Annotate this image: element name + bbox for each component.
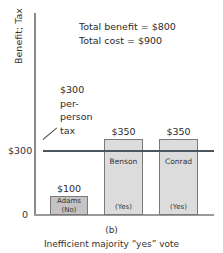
bar-adams: Adams (No) — [50, 196, 88, 215]
total-cost: Total cost = $900 — [79, 34, 176, 48]
totals-annotation: Total benefit = $800 Total cost = $900 — [79, 20, 176, 48]
y-axis-label: Benefit; Tax — [13, 8, 24, 64]
bar-value-conrad: $350 — [159, 126, 198, 137]
bar-name-adams: Adams — [51, 197, 87, 206]
panel-label: (b) — [0, 225, 223, 235]
chart-caption: Inefficient majority “yes” vote — [0, 239, 223, 249]
tax-annotation: $300 per- person tax — [60, 83, 93, 137]
bar-value-benson: $350 — [104, 126, 143, 137]
tax-reference-line — [43, 150, 214, 152]
tax-annotation-line: per- — [60, 97, 93, 111]
annotation-leader-line — [43, 128, 57, 140]
bar-vote-conrad: (Yes) — [160, 203, 197, 212]
bar-name-conrad: Conrad — [160, 157, 197, 166]
bar-name-benson: Benson — [105, 157, 142, 166]
total-benefit: Total benefit = $800 — [79, 20, 176, 34]
y-tick-300: $300 — [8, 145, 32, 156]
bar-vote-adams: (No) — [51, 206, 87, 215]
tax-annotation-line: person — [60, 110, 93, 124]
bar-vote-benson: (Yes) — [105, 203, 142, 212]
tax-annotation-line: tax — [60, 124, 93, 138]
y-axis-line — [34, 13, 36, 216]
y-tick-0: 0 — [22, 209, 28, 220]
bar-value-adams: $100 — [50, 183, 88, 194]
tax-annotation-line: $300 — [60, 83, 93, 97]
